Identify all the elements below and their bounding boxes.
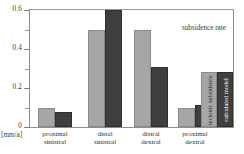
bar bbox=[55, 112, 72, 127]
bar bbox=[88, 30, 105, 128]
y-tick-label: 0.4 bbox=[12, 45, 22, 52]
y-axis: 00.20.40.6 bbox=[0, 9, 29, 129]
bar-group bbox=[88, 10, 122, 127]
y-tick-label: 0.6 bbox=[12, 6, 22, 13]
category-label: proximaldextral bbox=[165, 130, 225, 147]
y-tick-label: 0.2 bbox=[12, 84, 22, 91]
legend-label: tectonic subsidence bbox=[206, 75, 213, 125]
y-tick-label: 0 bbox=[18, 123, 22, 130]
category-label-line: dextral bbox=[165, 138, 225, 146]
chart-annotation: subsidence rate bbox=[182, 24, 226, 32]
bar-group bbox=[134, 30, 168, 128]
bar bbox=[38, 108, 55, 128]
legend: tectonic subsidencecalculated model bbox=[201, 72, 233, 127]
bar bbox=[134, 30, 151, 128]
legend-label: calculated model bbox=[222, 78, 229, 121]
chart-figure: 00.20.40.6 [mm/a] subsidence rate tecton… bbox=[0, 0, 244, 154]
bar-group bbox=[38, 108, 72, 128]
bar bbox=[105, 10, 122, 127]
legend-swatch: tectonic subsidence bbox=[201, 72, 217, 127]
y-axis-unit-label: [mm/a] bbox=[1, 131, 22, 139]
bar bbox=[178, 108, 195, 128]
legend-swatch: calculated model bbox=[217, 72, 233, 127]
bar bbox=[151, 67, 168, 127]
plot-area: subsidence rate tectonic subsidencecalcu… bbox=[29, 9, 234, 128]
category-label-line: proximal bbox=[165, 130, 225, 138]
